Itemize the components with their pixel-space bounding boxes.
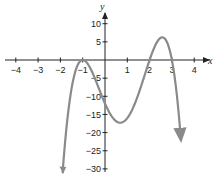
y-tick-label: −20 — [86, 128, 101, 138]
y-tick-label: 5 — [96, 37, 101, 47]
x-axis-label: x — [207, 55, 213, 66]
x-tick-label: −3 — [33, 65, 43, 75]
y-tick-label: −10 — [86, 92, 101, 102]
polynomial-graph: x y −4−3−2−11234 105−5−10−15−20−25−30 — [0, 0, 215, 180]
y-tick-label: −30 — [86, 164, 101, 174]
x-tick-label: −1 — [78, 65, 88, 75]
axes: x y — [5, 1, 213, 172]
x-tick-label: 4 — [192, 65, 197, 75]
y-tick-label: 10 — [91, 19, 101, 29]
polynomial-curve — [63, 37, 181, 172]
y-tick-label: −15 — [86, 110, 101, 120]
x-tick-label: −2 — [55, 65, 65, 75]
x-tick-label: 1 — [125, 65, 130, 75]
y-axis-label: y — [99, 1, 105, 12]
y-tick-label: −25 — [86, 146, 101, 156]
curve-end-arrow-left — [59, 166, 66, 173]
x-tick-label: −4 — [11, 65, 21, 75]
y-ticks: 105−5−10−15−20−25−30 — [86, 19, 108, 174]
